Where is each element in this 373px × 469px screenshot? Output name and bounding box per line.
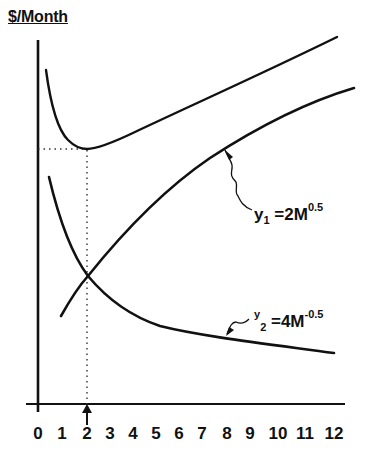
x-tick-7: 7 — [197, 424, 206, 444]
y-axis-label: $/Month — [8, 8, 68, 26]
x-tick-4: 4 — [128, 424, 137, 444]
x-tick-3: 3 — [105, 424, 114, 444]
chart-canvas — [0, 0, 373, 469]
x-tick-11: 11 — [296, 424, 314, 444]
x-tick-10: 10 — [269, 424, 288, 444]
y1-equation-label: y1 =2M0.5 — [254, 203, 323, 226]
x-tick-1: 1 — [57, 424, 66, 444]
x-tick-6: 6 — [174, 424, 183, 444]
y2-leader-arrowhead — [226, 327, 234, 336]
optimum-arrow-head — [82, 404, 92, 413]
x-tick-9: 9 — [245, 424, 254, 444]
x-tick-12: 12 — [325, 424, 344, 444]
x-tick-2: 2 — [82, 424, 91, 444]
x-tick-0: 0 — [33, 424, 42, 444]
y2-equation-label: y2 =4M-0.5 — [254, 310, 324, 333]
total-cost-curve — [46, 37, 337, 149]
x-tick-5: 5 — [151, 424, 160, 444]
x-tick-8: 8 — [222, 424, 231, 444]
y1-leader-arrowhead — [225, 150, 233, 160]
